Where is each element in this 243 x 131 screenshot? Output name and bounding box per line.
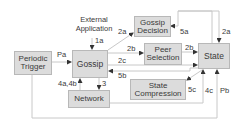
edge-label-pa: Pa bbox=[57, 51, 66, 59]
network-label: Network bbox=[74, 95, 103, 103]
edge-label-4a4b: 4a,4b bbox=[58, 80, 77, 88]
edge-label-5b: 5b bbox=[118, 72, 126, 80]
periodic-trigger-box: Periodic Trigger bbox=[14, 51, 52, 75]
peer-selection-box: Peer Selection bbox=[144, 43, 182, 65]
periodic-trigger-label: Periodic Trigger bbox=[15, 55, 51, 71]
edge-label-2a: 2a bbox=[118, 28, 126, 36]
gossip-decision-label: Gossip Decision bbox=[135, 19, 170, 35]
edge-label-2b-state: 2b bbox=[185, 44, 193, 52]
state-label: State bbox=[204, 52, 224, 60]
edge-label-3: 3 bbox=[102, 80, 106, 88]
edge-label-pb: Pb bbox=[220, 87, 229, 95]
edge-label-4c: 4c bbox=[205, 87, 213, 95]
state-box: State bbox=[198, 43, 230, 69]
edge-label-2a-state: 2a bbox=[222, 28, 230, 36]
edge-label-2b: 2b bbox=[127, 45, 135, 53]
gossip-label: Gossip bbox=[77, 60, 103, 68]
edge-label-1a: 1a bbox=[95, 37, 103, 45]
external-application-text: External Application bbox=[72, 16, 116, 33]
network-box: Network bbox=[68, 90, 110, 108]
edge-label-5c: 5c bbox=[188, 86, 196, 94]
state-compression-label: State Compression bbox=[131, 82, 185, 98]
external-line2: Application bbox=[72, 25, 116, 34]
peer-selection-label: Peer Selection bbox=[145, 46, 181, 62]
gossip-box: Gossip bbox=[72, 50, 108, 78]
gossip-decision-box: Gossip Decision bbox=[134, 16, 171, 37]
edge-label-5a: 5a bbox=[180, 28, 188, 36]
edge-label-2c: 2c bbox=[118, 57, 126, 65]
state-compression-box: State Compression bbox=[130, 79, 186, 100]
